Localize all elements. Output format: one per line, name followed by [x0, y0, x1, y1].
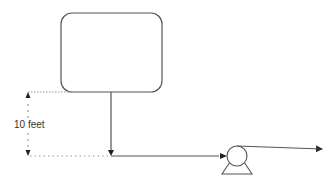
process-diagram — [0, 0, 335, 184]
pump-discharge-pipe — [237, 146, 322, 149]
dimension-arrow-up-icon — [26, 92, 31, 98]
pump-inlet-arrow-icon — [220, 153, 227, 159]
pump-casing — [227, 146, 247, 166]
tank — [61, 13, 162, 92]
dimension-label: 10 feet — [13, 119, 46, 131]
pump — [222, 146, 252, 174]
tank-outlet-arrow-icon — [108, 150, 114, 156]
dimension-arrow-down-icon — [26, 150, 31, 156]
